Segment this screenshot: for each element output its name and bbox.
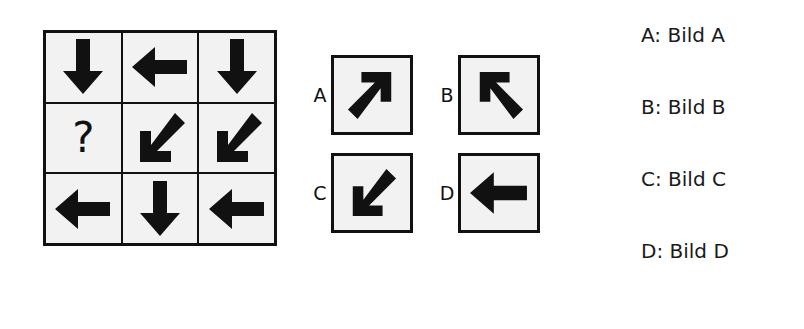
- answer-choice-c[interactable]: C: Bild C: [641, 169, 801, 189]
- option-b-letter: B: [436, 86, 458, 105]
- arrow-left-icon: [132, 45, 188, 89]
- option-b-box[interactable]: [458, 55, 540, 135]
- arrow-left-icon: [470, 170, 528, 216]
- option-c[interactable]: C: [309, 153, 413, 233]
- matrix-cell-r1c2: [123, 33, 198, 102]
- arrow-left-icon: [209, 187, 265, 231]
- matrix-grid: ?: [43, 30, 277, 246]
- answer-choice-a[interactable]: A: Bild A: [641, 25, 801, 45]
- answer-choice-list: A: Bild A B: Bild B C: Bild C D: Bild D: [641, 25, 801, 261]
- matrix-cell-r3c2: [123, 174, 198, 243]
- arrow-down-left-icon: [211, 112, 263, 164]
- question-mark-placeholder: ?: [72, 117, 94, 159]
- arrow-up-right-icon: [347, 70, 397, 120]
- arrow-down-left-icon: [134, 112, 186, 164]
- answer-choice-b[interactable]: B: Bild B: [641, 97, 801, 117]
- option-a-letter: A: [309, 86, 331, 105]
- answer-choice-d[interactable]: D: Bild D: [641, 241, 801, 261]
- option-b[interactable]: B: [436, 55, 540, 135]
- arrow-up-left-icon: [474, 70, 524, 120]
- option-d-letter: D: [436, 184, 458, 203]
- matrix-cell-r2c1: ?: [46, 104, 121, 173]
- matrix-cell-r1c3: [199, 33, 274, 102]
- option-a-box[interactable]: [331, 55, 413, 135]
- matrix-cell-r2c3: [199, 104, 274, 173]
- arrow-left-icon: [55, 187, 111, 231]
- matrix-cell-r2c2: [123, 104, 198, 173]
- arrow-down-icon: [138, 181, 182, 237]
- option-c-box[interactable]: [331, 153, 413, 233]
- arrow-down-icon: [61, 39, 105, 95]
- option-a[interactable]: A: [309, 55, 413, 135]
- arrow-down-icon: [215, 39, 259, 95]
- matrix-cell-r3c1: [46, 174, 121, 243]
- option-d-box[interactable]: [458, 153, 540, 233]
- option-c-letter: C: [309, 184, 331, 203]
- matrix-cell-r3c3: [199, 174, 274, 243]
- option-d[interactable]: D: [436, 153, 540, 233]
- arrow-down-left-icon: [347, 168, 397, 218]
- matrix-cell-r1c1: [46, 33, 121, 102]
